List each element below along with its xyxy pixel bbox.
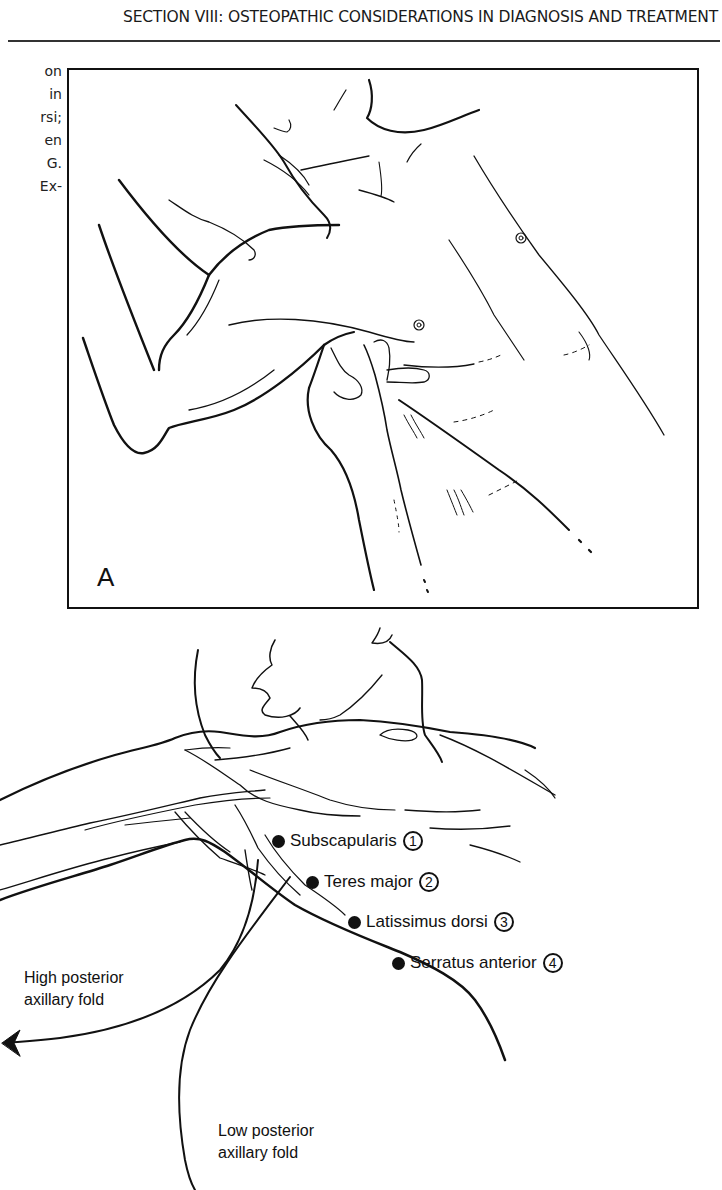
section-title: SECTION VIII: OSTEOPATHIC CONSIDERATIONS… bbox=[123, 8, 718, 26]
body-text-fragment: on in rsi; en G. Ex- bbox=[0, 60, 62, 198]
page-header: SECTION VIII: OSTEOPATHIC CONSIDERATIONS… bbox=[0, 0, 722, 44]
illustration-posterior-axillary-fold bbox=[0, 620, 722, 1190]
text-line: Ex- bbox=[0, 175, 62, 198]
label-low-posterior-axillary-fold: Low posterior axillary fold bbox=[218, 1120, 314, 1164]
label-line: axillary fold bbox=[24, 989, 124, 1011]
text-line: on bbox=[0, 60, 62, 83]
label-line: axillary fold bbox=[218, 1142, 314, 1164]
label-high-posterior-axillary-fold: High posterior axillary fold bbox=[24, 967, 124, 1011]
number-circle-icon: 3 bbox=[494, 912, 514, 932]
text-line: rsi; bbox=[0, 106, 62, 129]
muscle-name: Teres major bbox=[324, 872, 413, 892]
text-line: en bbox=[0, 129, 62, 152]
figure-panel-a: A bbox=[67, 68, 699, 609]
muscle-label-subscapularis: Subscapularis 1 bbox=[272, 831, 423, 851]
figure-panel-b: Subscapularis 1 Teres major 2 Latissimus… bbox=[0, 620, 722, 1190]
number-circle-icon: 4 bbox=[543, 953, 563, 973]
text-line: G. bbox=[0, 152, 62, 175]
bullet-dot-icon bbox=[348, 916, 361, 929]
muscle-label-latissimus-dorsi: Latissimus dorsi 3 bbox=[348, 912, 514, 932]
illustration-axillary-palpation bbox=[69, 70, 697, 607]
muscle-label-serratus-anterior: Serratus anterior 4 bbox=[392, 953, 563, 973]
panel-label-a: A bbox=[97, 562, 114, 593]
label-line: Low posterior bbox=[218, 1120, 314, 1142]
number-circle-icon: 2 bbox=[419, 872, 439, 892]
muscle-label-teres-major: Teres major 2 bbox=[306, 872, 439, 892]
muscle-name: Serratus anterior bbox=[410, 953, 537, 973]
label-line: High posterior bbox=[24, 967, 124, 989]
muscle-name: Subscapularis bbox=[290, 831, 397, 851]
bullet-dot-icon bbox=[392, 957, 405, 970]
muscle-name: Latissimus dorsi bbox=[366, 912, 488, 932]
number-circle-icon: 1 bbox=[403, 831, 423, 851]
bullet-dot-icon bbox=[272, 835, 285, 848]
text-line: in bbox=[0, 83, 62, 106]
header-rule bbox=[8, 40, 720, 42]
bullet-dot-icon bbox=[306, 876, 319, 889]
